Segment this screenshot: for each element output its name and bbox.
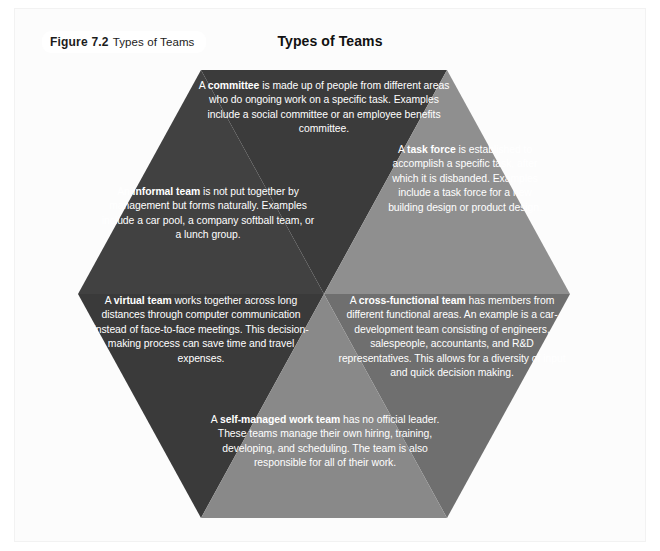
informal-team-lead-in: An xyxy=(117,186,132,197)
figure-number: Figure 7.2 xyxy=(50,35,109,49)
self-managed-work-team-term: self-managed work team xyxy=(220,414,340,425)
figure-container: Figure 7.2Types of Teams Types of Teams … xyxy=(0,0,660,551)
cross-functional-team-body: has members from different functional ar… xyxy=(338,295,565,378)
committee-lead-in: A xyxy=(199,80,208,91)
virtual-team-lead-in: A xyxy=(105,295,114,306)
self-managed-work-team-lead-in: A xyxy=(211,414,220,425)
segment-label-virtual-team: A virtual team works together across lon… xyxy=(88,294,314,366)
committee-term: committee xyxy=(208,80,260,91)
informal-team-term: informal team xyxy=(133,186,200,197)
virtual-team-term: virtual team xyxy=(114,295,172,306)
segment-label-informal-team: An informal team is not put together by … xyxy=(100,185,316,243)
cross-functional-team-term: cross-functional team xyxy=(359,295,466,306)
segment-label-cross-functional-team: A cross-functional team has members from… xyxy=(336,294,568,380)
cross-functional-team-lead-in: A xyxy=(350,295,359,306)
segment-label-committee: A committee is made up of people from di… xyxy=(196,79,452,137)
figure-caption: Types of Teams xyxy=(113,36,195,48)
segment-label-task-force: A task force is established to accomplis… xyxy=(382,143,548,215)
task-force-term: task force xyxy=(407,144,456,155)
segment-label-self-managed-work-team: A self-managed work team has no official… xyxy=(200,413,450,471)
figure-label: Figure 7.2Types of Teams xyxy=(42,31,206,53)
task-force-lead-in: A xyxy=(398,144,407,155)
